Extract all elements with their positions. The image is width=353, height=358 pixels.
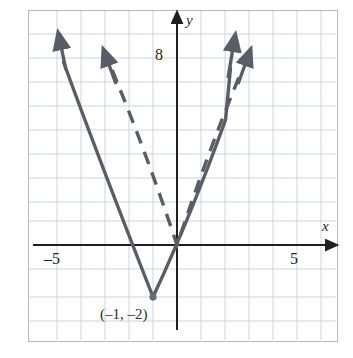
axes — [33, 22, 327, 330]
vertex-coordinate-label: (–1, –2) — [100, 306, 148, 323]
vertex-point-dot — [149, 293, 156, 300]
grid-lines-horizontal — [29, 34, 336, 321]
grid-lines-vertical — [57, 11, 321, 340]
y-tick-label-8: 8 — [155, 46, 163, 64]
base-parabola-arrow-right — [238, 62, 246, 84]
y-axis-label: y — [186, 12, 193, 29]
grid-lines — [29, 11, 336, 340]
x-tick-label-5: 5 — [290, 250, 298, 268]
shifted-parabola-solid-curve — [64, 62, 231, 297]
coordinate-plane — [0, 0, 353, 358]
x-tick-label-negative-5: –5 — [44, 250, 60, 268]
graph-figure: y x 8 –5 5 (–1, –2) — [0, 0, 353, 358]
x-axis-label: x — [322, 218, 329, 235]
